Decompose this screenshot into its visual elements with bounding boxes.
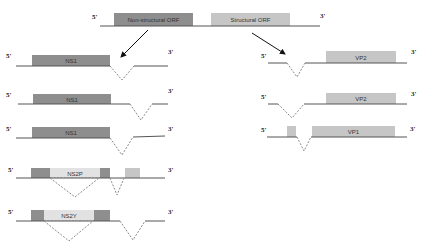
- three-prime-label: 3': [168, 87, 174, 95]
- arrow-to-nonstructural-icon: [121, 30, 148, 57]
- vp-transcript-1: 5' 3' VP2: [261, 48, 417, 77]
- vp1-label: VP1: [348, 129, 360, 135]
- vp-transcript-2: 5' 3' VP2: [261, 90, 417, 118]
- ns2y-label: NS2Y: [61, 213, 77, 219]
- three-prime-label: 3': [168, 208, 174, 216]
- five-prime-label: 5': [6, 91, 12, 99]
- splice-junction-icon: [120, 221, 145, 240]
- ns-exon-1: [31, 168, 50, 178]
- ns2p-label: NS2P: [67, 171, 83, 177]
- genome-3prime-label: 3': [320, 12, 326, 20]
- splice-junction-icon: [110, 137, 133, 155]
- splice-junction-icon: [110, 178, 124, 195]
- structural-orf-label: Structural ORF: [230, 17, 270, 23]
- vp2-label: VP2: [355, 55, 367, 61]
- splice-junction-icon: [50, 178, 99, 197]
- ns1-label: NS1: [65, 130, 77, 136]
- five-prime-label: 5': [261, 93, 267, 101]
- ns-transcript-2: 5' 3' NS1: [6, 87, 174, 120]
- small-exon: [287, 126, 296, 137]
- splice-junction-icon: [278, 104, 304, 118]
- ns-exon-2: [100, 168, 110, 178]
- three-prime-label: 3': [410, 125, 416, 133]
- splice-junction-icon: [297, 137, 311, 151]
- transcript-map-diagram: 5' 3' Non-structural ORF Structural ORF …: [0, 0, 426, 249]
- nonstructural-orf-label: Non-structural ORF: [127, 17, 179, 23]
- three-prime-label: 3': [411, 48, 417, 56]
- splice-junction-icon: [287, 63, 305, 77]
- ns-transcript-4: 5' 3' NS2P: [8, 166, 174, 197]
- splice-junction-icon: [130, 104, 152, 120]
- five-prime-label: 5': [6, 52, 12, 60]
- five-prime-label: 5': [8, 208, 14, 216]
- genome-5prime-label: 5': [92, 13, 98, 21]
- genome-map: 5' 3' Non-structural ORF Structural ORF: [92, 12, 326, 26]
- three-prime-label: 3': [168, 48, 174, 56]
- vp-transcript-3: 5' 3' VP1: [261, 125, 416, 151]
- ns-transcript-3: 5' 3' NS1: [6, 125, 174, 155]
- ns-exon-2: [94, 210, 110, 221]
- small-exon: [125, 168, 140, 178]
- five-prime-label: 5': [261, 52, 267, 60]
- ns1-label: NS1: [65, 58, 77, 64]
- ns-exon-1: [31, 210, 44, 221]
- three-prime-label: 3': [168, 125, 174, 133]
- arrow-to-structural-icon: [252, 33, 285, 54]
- ns1-label: NS1: [66, 97, 78, 103]
- three-prime-label: 3': [168, 166, 174, 174]
- ns-transcript-1: 5' 3' NS1: [6, 48, 174, 80]
- splice-junction-icon: [110, 66, 134, 80]
- three-prime-label: 3': [411, 90, 417, 98]
- five-prime-label: 5': [261, 126, 267, 134]
- ns-transcript-5: 5' 3' NS2Y: [8, 208, 174, 241]
- five-prime-label: 5': [6, 125, 12, 133]
- vp2-label: VP2: [355, 96, 367, 102]
- splice-junction-icon: [44, 221, 93, 241]
- five-prime-label: 5': [8, 166, 14, 174]
